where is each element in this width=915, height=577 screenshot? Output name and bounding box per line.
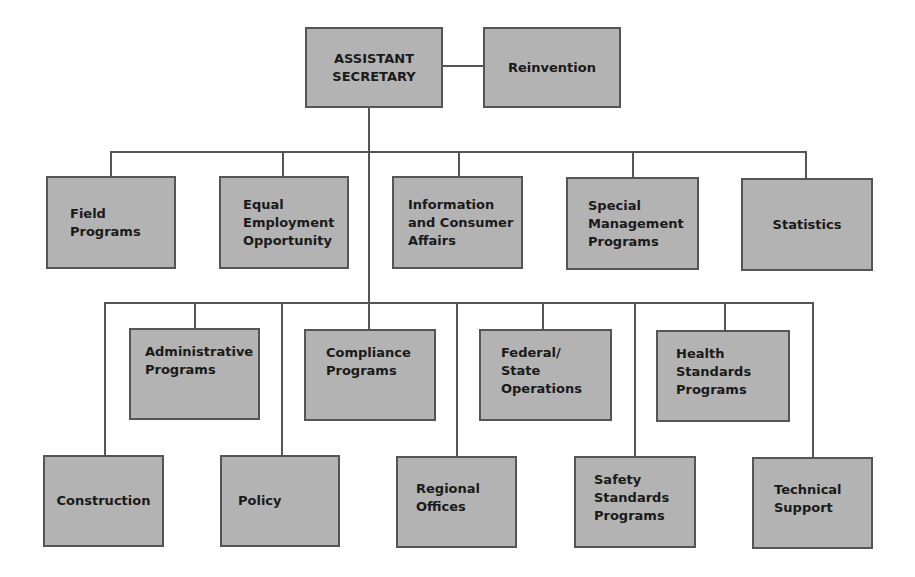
box-label: ASSISTANT SECRETARY xyxy=(332,50,415,86)
level1-drop xyxy=(110,151,112,177)
field-programs-box: Field Programs xyxy=(46,176,176,269)
federal-state-operations-box: Federal/ State Operations xyxy=(479,329,612,421)
box-label: Construction xyxy=(57,492,151,510)
compliance-programs-box: Compliance Programs xyxy=(304,329,436,421)
level2-upper-drop xyxy=(194,302,196,329)
construction-box: Construction xyxy=(43,455,164,547)
equal-employment-opportunity-box: Equal Employment Opportunity xyxy=(219,176,349,269)
box-label: Field Programs xyxy=(70,205,141,241)
level2-upper-drop xyxy=(368,302,370,329)
level1-drop xyxy=(805,151,807,178)
box-label: Equal Employment Opportunity xyxy=(243,196,334,250)
special-management-programs-box: Special Management Programs xyxy=(566,177,699,270)
level1-drop xyxy=(458,151,460,177)
box-label: Technical Support xyxy=(774,481,842,517)
box-label: Safety Standards Programs xyxy=(594,471,669,525)
level2-lower-drop xyxy=(104,302,106,456)
box-label: Special Management Programs xyxy=(588,197,684,251)
safety-standards-programs-box: Safety Standards Programs xyxy=(574,456,696,548)
assistant-secretary-box: ASSISTANT SECRETARY xyxy=(305,27,443,108)
level1-drop xyxy=(632,151,634,177)
box-label: Compliance Programs xyxy=(326,344,411,380)
reinvention-box: Reinvention xyxy=(483,27,621,108)
administrative-programs-box: Administrative Programs xyxy=(129,328,260,420)
box-label: Federal/ State Operations xyxy=(501,344,582,398)
level2-lower-drop xyxy=(812,302,814,458)
statistics-box: Statistics xyxy=(741,178,873,271)
level1-drop xyxy=(282,151,284,177)
health-standards-programs-box: Health Standards Programs xyxy=(656,330,790,422)
box-label: Health Standards Programs xyxy=(676,345,751,399)
box-label: Policy xyxy=(238,492,282,510)
box-label: Regional Offices xyxy=(416,480,480,516)
box-label: Reinvention xyxy=(508,59,596,77)
level2-lower-drop xyxy=(634,302,636,457)
level2-bar xyxy=(104,302,814,304)
technical-support-box: Technical Support xyxy=(752,457,873,549)
box-label: Information and Consumer Affairs xyxy=(408,196,513,250)
level2-lower-drop xyxy=(281,302,283,456)
trunk-connector xyxy=(368,107,370,304)
level2-upper-drop xyxy=(542,302,544,329)
regional-offices-box: Regional Offices xyxy=(396,456,517,548)
level2-lower-drop xyxy=(456,302,458,456)
policy-box: Policy xyxy=(220,455,340,547)
level2-upper-drop xyxy=(724,302,726,330)
root-staff-connector xyxy=(442,65,484,67)
information-consumer-affairs-box: Information and Consumer Affairs xyxy=(392,176,523,269)
box-label: Administrative Programs xyxy=(145,343,253,379)
box-label: Statistics xyxy=(773,216,842,234)
